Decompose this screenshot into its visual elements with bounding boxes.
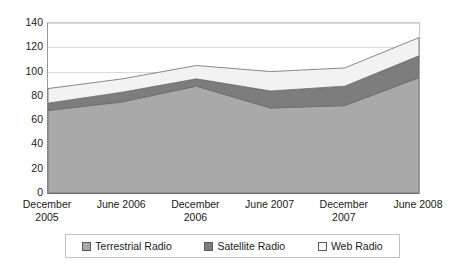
y-axis-tick-label: 140 <box>3 17 43 27</box>
plot-area <box>47 22 420 194</box>
x-axis-tick-label-line1: June 2008 <box>375 198 461 211</box>
legend-swatch-icon <box>82 242 91 251</box>
area-series-group <box>48 23 419 193</box>
legend-item: Terrestrial Radio <box>82 241 171 252</box>
x-axis-tick-label-line1: December <box>4 198 90 211</box>
x-axis-tick-label-line2: 2006 <box>152 211 238 224</box>
y-axis-tick-label: 80 <box>3 90 43 100</box>
x-axis-tick-label-line2: 2005 <box>4 211 90 224</box>
legend-swatch-icon <box>318 242 327 251</box>
x-axis-tick-label: December2006 <box>152 198 238 223</box>
y-axis-tick-label: 0 <box>3 187 43 197</box>
legend-swatch-icon <box>204 242 213 251</box>
x-axis-tick-label: December2007 <box>301 198 387 223</box>
legend-item-label: Terrestrial Radio <box>95 241 171 252</box>
legend-item-label: Satellite Radio <box>217 241 285 252</box>
y-axis-tick-label: 60 <box>3 114 43 124</box>
stacked-area-chart: 020406080100120140 December2005June 2006… <box>0 0 463 263</box>
x-axis: December2005June 2006December2006June 20… <box>0 198 463 232</box>
x-axis-tick-label: June 2006 <box>78 198 164 211</box>
x-axis-tick-label-line1: December <box>301 198 387 211</box>
x-axis-tick-label-line2: 2007 <box>301 211 387 224</box>
y-axis-tick-label: 20 <box>3 163 43 173</box>
y-axis-tick-label: 120 <box>3 41 43 51</box>
x-axis-tick-label-line1: June 2006 <box>78 198 164 211</box>
x-axis-tick-label: June 2007 <box>227 198 313 211</box>
x-axis-tick-label-line1: June 2007 <box>227 198 313 211</box>
y-axis: 020406080100120140 <box>0 0 43 192</box>
legend-item: Web Radio <box>318 241 383 252</box>
legend-item: Satellite Radio <box>204 241 285 252</box>
x-axis-tick-label: December2005 <box>4 198 90 223</box>
legend-item-label: Web Radio <box>331 241 383 252</box>
y-axis-tick-label: 100 <box>3 66 43 76</box>
y-axis-tick-label: 40 <box>3 138 43 148</box>
chart-legend: Terrestrial RadioSatellite RadioWeb Radi… <box>65 234 400 258</box>
x-axis-tick-label-line1: December <box>152 198 238 211</box>
x-axis-tick-label: June 2008 <box>375 198 461 211</box>
